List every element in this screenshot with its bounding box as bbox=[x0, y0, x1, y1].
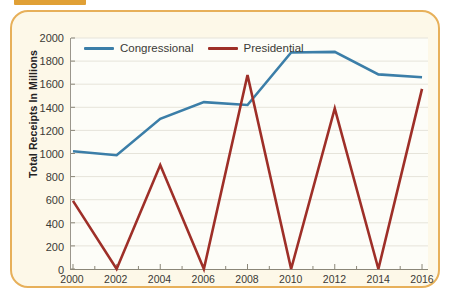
x-tick-label: 2016 bbox=[410, 273, 433, 285]
x-tick-label: 2008 bbox=[235, 273, 258, 285]
y-tick-label: 1000 bbox=[40, 148, 64, 160]
x-axis-tick-labels: 200020022004200620082010201220142016 bbox=[70, 272, 428, 290]
chart-legend: CongressionalPresidential bbox=[84, 42, 304, 54]
figure-card: Total Receipts In Millions 0200400600800… bbox=[10, 10, 440, 288]
x-tick-label: 2006 bbox=[192, 273, 215, 285]
top-header-strip: a, pig i, a, pa, a bbox=[0, 0, 452, 9]
y-tick-label: 200 bbox=[46, 241, 64, 253]
y-tick-label: 2000 bbox=[40, 32, 64, 44]
x-tick-label: 2004 bbox=[148, 273, 171, 285]
legend-swatch-icon bbox=[84, 47, 114, 50]
plot-area bbox=[70, 38, 428, 270]
plot-frame bbox=[70, 38, 428, 270]
x-tick-label: 2012 bbox=[323, 273, 346, 285]
x-tick-label: 2000 bbox=[60, 273, 83, 285]
legend-label: Presidential bbox=[244, 42, 304, 54]
header-accent-bar bbox=[14, 0, 86, 5]
legend-swatch-icon bbox=[208, 47, 238, 50]
y-tick-label: 400 bbox=[46, 218, 64, 230]
y-tick-label: 800 bbox=[46, 171, 64, 183]
y-tick-label: 600 bbox=[46, 194, 64, 206]
y-tick-label: 1400 bbox=[40, 102, 64, 114]
y-tick-label: 1200 bbox=[40, 125, 64, 137]
legend-label: Congressional bbox=[120, 42, 194, 54]
series-lines bbox=[71, 38, 428, 269]
series-line-congressional bbox=[73, 52, 422, 155]
x-tick-label: 2002 bbox=[104, 273, 127, 285]
y-tick-label: 1600 bbox=[40, 78, 64, 90]
legend-entry-presidential[interactable]: Presidential bbox=[208, 42, 304, 54]
x-tick-label: 2014 bbox=[367, 273, 390, 285]
legend-entry-congressional[interactable]: Congressional bbox=[84, 42, 194, 54]
y-axis-tick-labels: 0200400600800100012001400160018002000 bbox=[12, 38, 68, 270]
x-tick-label: 2010 bbox=[279, 273, 302, 285]
y-tick-label: 1800 bbox=[40, 55, 64, 67]
